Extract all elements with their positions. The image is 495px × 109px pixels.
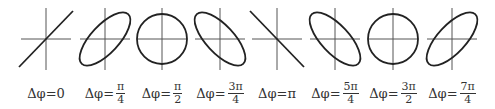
panel-4 (187, 5, 254, 74)
phase-label-prefix: Δφ= (196, 86, 225, 101)
panel-5 (250, 8, 304, 70)
panel-2 (72, 5, 139, 74)
phase-label: Δφ=7π4 (412, 78, 492, 108)
phase-value: 0 (57, 86, 65, 101)
panel-7 (368, 8, 418, 70)
phase-label-prefix: Δφ= (85, 86, 114, 101)
panel-6 (302, 5, 369, 74)
phase-label-prefix: Δφ= (258, 86, 287, 101)
fraction-numerator: 7π (460, 81, 476, 94)
phase-label-prefix: Δφ= (311, 86, 340, 101)
phase-label-prefix: Δφ= (27, 86, 56, 101)
panel-1 (19, 8, 73, 70)
phase-label-prefix: Δφ= (369, 86, 398, 101)
phase-fraction: 7π4 (460, 81, 476, 106)
fraction-denominator: 4 (464, 94, 471, 106)
phase-label-prefix: Δφ= (428, 86, 457, 101)
phase-label-prefix: Δφ= (142, 86, 171, 101)
panel-3 (137, 8, 187, 70)
panel-8 (419, 5, 486, 74)
